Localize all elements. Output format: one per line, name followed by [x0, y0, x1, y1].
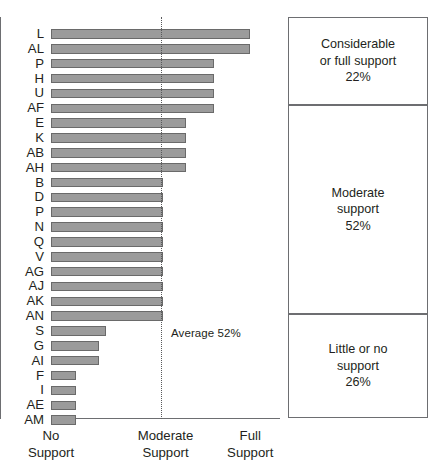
bar-category-label: D: [34, 190, 44, 203]
bar-row: AF: [51, 104, 280, 114]
bar: [51, 415, 76, 425]
bar-category-label: AL: [28, 42, 44, 55]
bar: [51, 371, 76, 381]
bar: [51, 44, 250, 54]
bar: [51, 326, 106, 336]
bar: [51, 148, 186, 158]
legend-line1-0: Considerable: [320, 36, 396, 53]
legend-box-little-or-no-support: Little or no support 26%: [288, 314, 428, 418]
bar-row: V: [51, 252, 280, 262]
bar-category-label: S: [35, 324, 44, 337]
bar: [51, 401, 76, 411]
bar-row: AB: [51, 148, 280, 158]
bar: [51, 104, 214, 114]
bar-category-label: F: [36, 369, 44, 382]
legend-text-little-or-no-support: Little or no support 26%: [323, 341, 394, 391]
bar: [51, 207, 163, 217]
legend-text-considerable-or-full-support: Considerable or full support 22%: [314, 36, 402, 86]
bar: [51, 178, 163, 188]
bar-category-label: AI: [32, 354, 44, 367]
bar-row: AI: [51, 356, 280, 366]
bar-category-label: H: [34, 72, 44, 85]
bar-row: I: [51, 386, 280, 396]
bar: [51, 386, 76, 396]
bar-row: AJ: [51, 282, 280, 292]
bar: [51, 356, 99, 366]
bar-category-label: AG: [25, 265, 44, 278]
legend-line2-1: support: [331, 201, 384, 218]
bar-category-label: AJ: [29, 280, 44, 293]
legend-box-moderate-support: Moderate support 52%: [288, 105, 428, 314]
x-tick-no-support: No Support: [0, 428, 106, 461]
bar-category-label: G: [34, 339, 44, 352]
x-tick-full-support: Full Support: [195, 428, 305, 461]
bar-category-label: AH: [26, 161, 44, 174]
legend-box-considerable-or-full-support: Considerable or full support 22%: [288, 17, 428, 105]
bar-row: S: [51, 326, 280, 336]
average-annotation-label: Average 52%: [171, 327, 241, 339]
bar-row: D: [51, 193, 280, 203]
bar-category-label: AK: [26, 294, 44, 307]
bar: [51, 282, 163, 292]
bar: [51, 297, 163, 307]
bar-category-label: L: [37, 27, 44, 40]
bar: [51, 29, 250, 39]
bar-category-label: AM: [24, 413, 44, 426]
legend-line1-1: Moderate: [331, 185, 384, 202]
bar-row: K: [51, 133, 280, 143]
bar-row: G: [51, 341, 280, 351]
bar: [51, 252, 163, 262]
legend-text-moderate-support: Moderate support 52%: [325, 185, 390, 235]
horizontal-bar-chart: LALPHUAFEKABAHBDPNQVAGAJAKANSGAIFIAEAM A…: [0, 0, 437, 472]
x-tick-no-support-line2: Support: [0, 445, 106, 462]
bar-row: AN: [51, 311, 280, 321]
bar: [51, 89, 214, 99]
bar-row: AG: [51, 267, 280, 277]
x-tick-full-support-line2: Support: [195, 445, 305, 462]
bar: [51, 193, 163, 203]
bar-row: E: [51, 118, 280, 128]
bar-category-label: P: [35, 205, 44, 218]
bar: [51, 222, 163, 232]
bar-category-label: B: [35, 176, 44, 189]
average-reference-line: [161, 17, 162, 419]
bar: [51, 237, 163, 247]
bar-category-label: AF: [27, 101, 44, 114]
bar-row: U: [51, 89, 280, 99]
bar-row: H: [51, 74, 280, 84]
legend-line2-0: or full support: [320, 53, 396, 70]
bar-row: Q: [51, 237, 280, 247]
plot-area: LALPHUAFEKABAHBDPNQVAGAJAKANSGAIFIAEAM: [51, 17, 280, 418]
bar-category-label: K: [35, 131, 44, 144]
x-tick-no-support-line1: No: [0, 428, 106, 445]
bar-row: AE: [51, 401, 280, 411]
bar-category-label: N: [34, 220, 44, 233]
bar-row: N: [51, 222, 280, 232]
bar-row: AK: [51, 297, 280, 307]
bar: [51, 267, 163, 277]
x-tick-full-support-line1: Full: [195, 428, 305, 445]
bar: [51, 59, 214, 69]
bar-row: P: [51, 207, 280, 217]
bar-category-label: AN: [26, 309, 44, 322]
bar-row: B: [51, 178, 280, 188]
bar-category-label: AE: [26, 398, 44, 411]
bar-category-label: U: [34, 87, 44, 100]
bar-category-label: AB: [26, 146, 44, 159]
y-axis-line: [0, 17, 1, 419]
legend-percent-2: 26%: [329, 374, 388, 391]
bar-category-label: P: [35, 57, 44, 70]
bar-row: L: [51, 29, 280, 39]
legend-percent-1: 52%: [331, 218, 384, 235]
bar-row: AM: [51, 415, 280, 425]
bar: [51, 163, 186, 173]
bar-category-label: V: [35, 250, 44, 263]
legend-line2-2: support: [329, 358, 388, 375]
bar: [51, 133, 186, 143]
bar: [51, 74, 214, 84]
bar: [51, 341, 99, 351]
bar: [51, 311, 163, 321]
legend-line1-2: Little or no: [329, 341, 388, 358]
bar-row: AH: [51, 163, 280, 173]
bar-category-label: Q: [34, 235, 44, 248]
